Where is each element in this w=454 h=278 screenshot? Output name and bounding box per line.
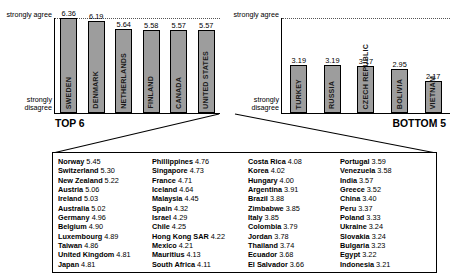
table-row: Spain4.32: [152, 204, 248, 213]
table-row: France4.71: [152, 176, 248, 185]
table-row: South Africa4.11: [152, 260, 248, 269]
bottom5-bar-cell: 2.95BOLIVIA: [383, 18, 417, 113]
country-score: 4.25: [172, 222, 186, 231]
table-column-4: Portugal3.59Venezuela3.58India3.57Greece…: [340, 157, 436, 269]
country-name: India: [340, 176, 357, 185]
country-name: Portugal: [340, 157, 370, 166]
country-score: 3.91: [284, 185, 298, 194]
bottom5-bar-cell: 3.17CZECH REPUBLIC: [349, 18, 383, 113]
table-row: Peru3.37: [340, 204, 436, 213]
bottom5-bar-label: RUSSIA: [328, 81, 336, 109]
table-row: Venezuela3.58: [340, 166, 436, 175]
country-name: Phillippines: [152, 157, 193, 166]
table-row: Luxembourg4.89: [58, 232, 152, 241]
table-column-3: Costa Rica4.08Korea4.02Hungary4.00Argent…: [248, 157, 340, 269]
country-score: 5.22: [105, 176, 119, 185]
table-row: Zimbabwe3.85: [248, 204, 340, 213]
country-score: 4.64: [179, 185, 193, 194]
table-row: Belgium4.90: [58, 222, 152, 231]
country-score: 3.57: [359, 176, 373, 185]
table-row: Korea4.02: [248, 166, 340, 175]
table-row: Ecuador3.68: [248, 250, 340, 259]
top6-bar-cell: 5.64NETHERLANDS: [110, 18, 138, 113]
table-row: Phillippines4.76: [152, 157, 248, 166]
country-name: Thailand: [248, 241, 278, 250]
table-row: India3.57: [340, 176, 436, 185]
top6-bar-cell: 5.57UNITED STATES: [193, 18, 221, 113]
table-row: Taiwan4.86: [58, 241, 152, 250]
country-name: Singapore: [152, 166, 188, 175]
country-score: 4.76: [195, 157, 209, 166]
table-row: United Kingdom4.81: [58, 250, 152, 259]
country-name: Jordan: [248, 232, 272, 241]
table-row: Iceland4.64: [152, 185, 248, 194]
callout-line-left: [53, 114, 219, 153]
country-score: 5.45: [86, 157, 100, 166]
country-score: 4.81: [116, 250, 130, 259]
right-bar-series: 3.19TURKEY3.19RUSSIA3.17CZECH REPUBLIC2.…: [282, 18, 450, 113]
bottom5-bar-value: 3.19: [292, 56, 306, 65]
country-name: Ukraine: [340, 222, 367, 231]
table-row: Mexico4.21: [152, 241, 248, 250]
country-score: 3.66: [290, 260, 304, 269]
country-score: 5.06: [85, 185, 99, 194]
country-score: 3.85: [265, 213, 279, 222]
right-axis-bottom-line1: strongly disagree: [233, 96, 279, 112]
country-name: Hungary: [248, 176, 278, 185]
right-plot-area: 3.19TURKEY3.19RUSSIA3.17CZECH REPUBLIC2.…: [281, 18, 450, 114]
bottom5-bar-label: BOLIVIA: [396, 79, 404, 109]
country-name: Switzerland: [58, 166, 99, 175]
left-plot-area: 6.36SWEDEN6.19DENMARK5.64NETHERLANDS5.58…: [54, 18, 220, 114]
bottom5-bar-value: 3.19: [325, 56, 339, 65]
country-name: Spain: [152, 204, 172, 213]
country-name: United Kingdom: [58, 250, 114, 259]
table-row: Costa Rica4.08: [248, 157, 340, 166]
country-score: 3.59: [372, 157, 386, 166]
country-score: 5.03: [84, 194, 98, 203]
country-score: 4.29: [173, 213, 187, 222]
top6-bar: 5.64NETHERLANDS: [115, 29, 132, 113]
country-name: France: [152, 176, 176, 185]
table-row: Bulgaria3.23: [340, 241, 436, 250]
top6-bar-value: 6.36: [62, 9, 76, 18]
country-name: Zimbabwe: [248, 204, 284, 213]
country-score: 3.37: [358, 204, 372, 213]
country-name: Poland: [340, 213, 364, 222]
country-score: 3.33: [366, 213, 380, 222]
country-name: Bulgaria: [340, 241, 369, 250]
country-score: 4.13: [186, 250, 200, 259]
country-score: 3.24: [369, 222, 383, 231]
table-row: New Zealand5.22: [58, 176, 152, 185]
top6-bar-value: 6.19: [89, 12, 103, 21]
table-row: Argentina3.91: [248, 185, 340, 194]
left-axis-bottom-label: strongly disagree: [6, 96, 52, 112]
table-row: Singapore4.73: [152, 166, 248, 175]
country-score: 3.52: [367, 185, 381, 194]
country-name: Greece: [340, 185, 365, 194]
table-row: Indonesia3.21: [340, 260, 436, 269]
bottom5-bar-label: TURKEY: [295, 79, 303, 109]
bottom5-bar: 3.19TURKEY: [290, 65, 307, 113]
table-row: Greece3.52: [340, 185, 436, 194]
country-name: Belgium: [58, 222, 87, 231]
table-row: Hong Kong SAR4.22: [152, 232, 248, 241]
country-score: 4.32: [174, 204, 188, 213]
country-name: Mexico: [152, 241, 177, 250]
table-row: Portugal3.59: [340, 157, 436, 166]
top6-bar-label: CANADA: [175, 77, 183, 109]
country-name: Slovakia: [340, 232, 370, 241]
country-score: 3.40: [362, 194, 376, 203]
country-score-table: Norway5.45Switzerland5.30New Zealand5.22…: [52, 152, 437, 273]
country-name: Luxembourg: [58, 232, 102, 241]
table-row: Mauritius4.13: [152, 250, 248, 259]
top6-bar-cell: 6.36SWEDEN: [55, 18, 83, 113]
country-score: 4.73: [190, 166, 204, 175]
callout-connector: [0, 112, 454, 156]
top6-bar-cell: 5.57CANADA: [165, 18, 193, 113]
left-axis-bottom-line1: strongly disagree: [6, 96, 52, 112]
top6-bar-label: SWEDEN: [65, 77, 73, 109]
top6-bar-value: 5.57: [172, 21, 186, 30]
country-name: South Africa: [152, 260, 195, 269]
right-axis-bottom-label: strongly disagree: [233, 96, 279, 112]
table-row: Switzerland5.30: [58, 166, 152, 175]
